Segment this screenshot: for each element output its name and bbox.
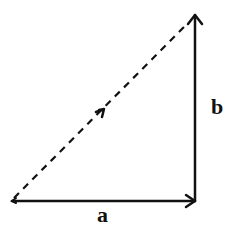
vector-b (188, 15, 202, 201)
vector-resultant (14, 27, 184, 198)
vector-diagram: a b (0, 0, 235, 236)
vector-diagram-svg (0, 0, 235, 236)
label-a: a (97, 204, 108, 226)
label-b: b (211, 96, 223, 118)
